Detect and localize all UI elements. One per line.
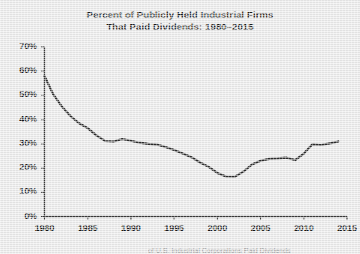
x-axis-label: 2000 <box>197 223 237 233</box>
axis-lines <box>45 47 348 217</box>
y-axis-label: 20% <box>3 162 37 172</box>
x-axis-label: 2010 <box>284 223 324 233</box>
y-axis-label: 50% <box>3 89 37 99</box>
x-axis-label: 1990 <box>111 223 151 233</box>
chart-plot-area <box>0 0 360 254</box>
chart-axes <box>41 47 347 220</box>
y-axis-label: 40% <box>3 114 37 124</box>
data-series-line <box>45 76 339 177</box>
x-axis-label: 1995 <box>154 223 194 233</box>
x-axis-label: 2005 <box>241 223 281 233</box>
x-axis-label: 1980 <box>25 223 65 233</box>
x-axis-label: 1985 <box>68 223 108 233</box>
chart-figure: Percent of Publicly Held Industrial Firm… <box>0 0 360 254</box>
y-axis-label: 70% <box>3 41 37 51</box>
y-axis-label: 30% <box>3 138 37 148</box>
y-axis-label: 0% <box>3 211 37 221</box>
y-axis-label: 60% <box>3 65 37 75</box>
figure-caption: of U.S. Industrial Corporations Paid Div… <box>148 246 360 254</box>
x-axis-label: 2015 <box>327 223 360 233</box>
y-axis-label: 10% <box>3 186 37 196</box>
